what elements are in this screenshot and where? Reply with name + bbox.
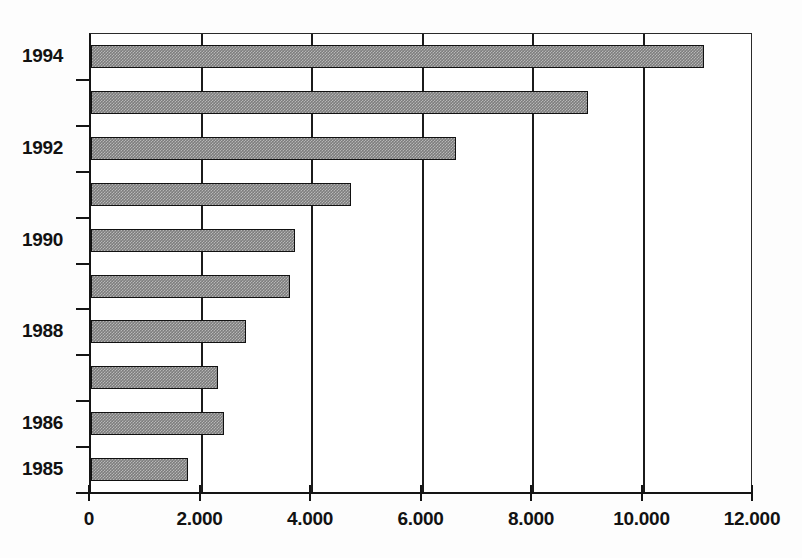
- bar-1991[interactable]: [91, 183, 351, 206]
- y-axis-tick: [76, 492, 90, 494]
- bar-row-1987: [91, 355, 751, 401]
- bar-1987[interactable]: [91, 366, 218, 389]
- y-axis-tick-label-1985: 1985: [22, 458, 63, 480]
- y-axis-tick-label-1986: 1986: [22, 412, 63, 434]
- x-axis-tick: [420, 485, 422, 501]
- y-axis-tick-label-1988: 1988: [22, 320, 63, 342]
- x-axis-tick-label: 8.000: [508, 508, 554, 530]
- bar-row-1991: [91, 172, 751, 218]
- bar-row-1994: [91, 34, 751, 80]
- bar-1994[interactable]: [91, 45, 704, 68]
- bar-1985[interactable]: [91, 458, 188, 481]
- y-axis-tick-label-1992: 1992: [22, 137, 63, 159]
- bar-row-1986: [91, 401, 751, 447]
- y-axis-tick: [76, 263, 90, 265]
- y-axis-tick: [76, 446, 90, 448]
- bar-row-1989: [91, 264, 751, 310]
- bar-chart: 02.0004.0006.0008.00010.00012.000 198519…: [0, 0, 802, 558]
- y-axis-tick: [76, 308, 90, 310]
- y-axis-tick-label-1994: 1994: [22, 45, 63, 67]
- plot-area: [89, 33, 752, 492]
- bar-row-1993: [91, 80, 751, 126]
- x-axis-tick-label: 0: [84, 508, 94, 530]
- x-axis-tick-label: 2.000: [176, 508, 222, 530]
- x-axis-tick-label: 6.000: [397, 508, 443, 530]
- bar-1990[interactable]: [91, 229, 295, 252]
- bar-1986[interactable]: [91, 412, 224, 435]
- bar-1989[interactable]: [91, 275, 290, 298]
- bar-row-1988: [91, 309, 751, 355]
- y-axis-tick-label-1990: 1990: [22, 229, 63, 251]
- x-axis-tick: [309, 485, 311, 501]
- x-axis-tick-label: 10.000: [613, 508, 669, 530]
- bar-1992[interactable]: [91, 137, 456, 160]
- bar-1988[interactable]: [91, 320, 246, 343]
- x-axis-tick: [751, 485, 753, 501]
- y-axis-tick: [76, 125, 90, 127]
- x-axis-tick: [199, 485, 201, 501]
- x-axis-tick-label: 4.000: [287, 508, 333, 530]
- y-axis-tick: [76, 400, 90, 402]
- y-axis-tick: [76, 354, 90, 356]
- y-axis-tick: [76, 79, 90, 81]
- x-axis-tick-label: 12.000: [724, 508, 780, 530]
- bar-row-1990: [91, 218, 751, 264]
- y-axis-tick: [76, 217, 90, 219]
- bar-row-1992: [91, 126, 751, 172]
- x-axis-tick: [641, 485, 643, 501]
- bar-1993[interactable]: [91, 91, 588, 114]
- bars-layer: [91, 34, 751, 492]
- x-axis-tick: [530, 485, 532, 501]
- y-axis-tick: [76, 171, 90, 173]
